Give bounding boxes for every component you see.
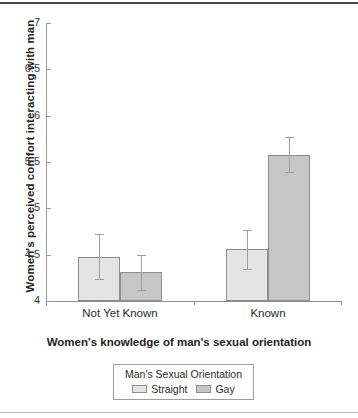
legend-title: Man's Sexual Orientation	[118, 368, 249, 380]
legend-label: Gay	[215, 383, 234, 395]
x-tick-mark	[194, 301, 195, 305]
error-bar	[99, 234, 100, 278]
error-bar-cap	[95, 279, 104, 280]
y-axis-line	[46, 23, 47, 306]
y-tick-label: 6	[6, 109, 40, 121]
error-bar	[141, 255, 142, 290]
bottom-divider	[0, 412, 358, 413]
plot-area: 44.555.566.57 Not Yet KnownKnown	[46, 18, 344, 306]
legend: Man's Sexual Orientation StraightGay	[113, 364, 254, 400]
y-tick-mark	[47, 116, 51, 117]
error-bar	[247, 230, 248, 269]
legend-item: Straight	[132, 383, 187, 395]
x-axis-title: Women's knowledge of man's sexual orient…	[0, 336, 358, 348]
error-bar-cap	[137, 255, 146, 256]
bar	[268, 155, 310, 301]
x-tick-mark	[341, 301, 342, 305]
y-tick-label: 6.5	[6, 62, 40, 74]
error-bar-cap	[285, 137, 294, 138]
y-tick-label: 5	[6, 201, 40, 213]
y-tick-mark	[47, 301, 51, 302]
error-bar-cap	[243, 230, 252, 231]
legend-item: Gay	[196, 383, 234, 395]
chart-figure: Women's perceived comfort interacting wi…	[0, 0, 358, 418]
error-bar	[289, 137, 290, 172]
y-tick-label: 7	[6, 16, 40, 28]
y-tick-mark	[47, 69, 51, 70]
y-tick-mark	[47, 255, 51, 256]
error-bar-cap	[243, 269, 252, 270]
x-category-label: Not Yet Known	[46, 307, 194, 319]
y-tick-label: 4	[6, 294, 40, 306]
y-tick-label: 4.5	[6, 248, 40, 260]
legend-entries: StraightGay	[118, 383, 249, 395]
y-tick-mark	[47, 23, 51, 24]
error-bar-cap	[95, 234, 104, 235]
legend-label: Straight	[151, 383, 187, 395]
top-divider	[0, 2, 358, 4]
y-tick-label: 5.5	[6, 155, 40, 167]
y-tick-mark	[47, 208, 51, 209]
y-tick-mark	[47, 162, 51, 163]
legend-swatch-gay	[196, 385, 211, 393]
error-bar-cap	[285, 172, 294, 173]
x-category-label: Known	[194, 307, 342, 319]
error-bar-cap	[137, 290, 146, 291]
x-tick-mark	[46, 301, 47, 305]
legend-swatch-straight	[132, 385, 147, 393]
